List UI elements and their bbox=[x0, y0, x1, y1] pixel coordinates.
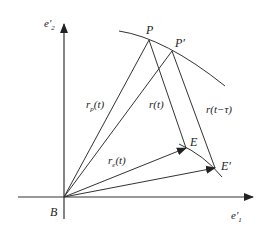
origin-label: B bbox=[50, 205, 58, 219]
y-axis-label: e′2 bbox=[44, 17, 55, 32]
vector-rt-label: r(t) bbox=[149, 98, 164, 111]
vector-P-E bbox=[149, 40, 186, 148]
point-E-label: E bbox=[189, 135, 198, 149]
x-axis-label: e′1 bbox=[231, 209, 242, 224]
position-vector-diagram: e′2 e′1 B P P′ E E′ rp(t) re(t) r(t) r(t… bbox=[0, 0, 267, 232]
vector-rt-tau-label: r(t−τ) bbox=[206, 103, 232, 116]
point-Pprime-label: P′ bbox=[174, 36, 185, 50]
point-Eprime-label: E′ bbox=[220, 159, 231, 173]
vector-re-label: re(t) bbox=[108, 154, 126, 169]
point-P-label: P bbox=[145, 23, 154, 37]
vector-B-P bbox=[64, 40, 149, 197]
vector-B-Eprime bbox=[64, 168, 215, 197]
trajectory-curve-e bbox=[179, 144, 222, 177]
vector-rp-label: rp(t) bbox=[86, 98, 105, 113]
trajectory-curve-p bbox=[119, 31, 225, 86]
